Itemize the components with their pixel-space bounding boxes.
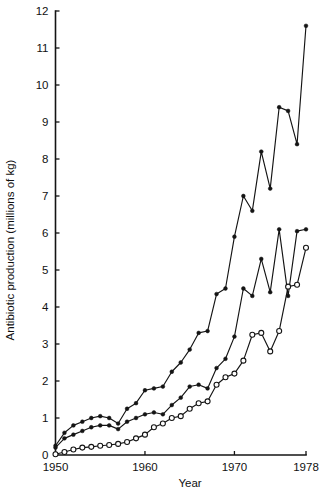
open-circle-marker xyxy=(259,330,264,335)
open-circle-marker xyxy=(286,284,291,289)
filled-circle-marker xyxy=(295,142,299,146)
filled-circle-marker xyxy=(98,414,102,418)
filled-circle-marker xyxy=(107,416,111,420)
filled-circle-marker xyxy=(134,401,138,405)
filled-circle-marker xyxy=(215,292,219,296)
filled-circle-marker xyxy=(188,385,192,389)
y-tick-label: 9 xyxy=(42,116,48,128)
filled-circle-marker xyxy=(250,294,254,298)
filled-circle-marker xyxy=(268,187,272,191)
y-tick-label: 4 xyxy=(42,301,49,313)
filled-circle-marker xyxy=(277,227,281,231)
filled-circle-marker xyxy=(206,387,210,391)
open-circle-marker xyxy=(304,245,309,250)
open-circle-marker xyxy=(62,450,67,455)
filled-circle-marker xyxy=(71,433,75,437)
x-axis: 1950196019701978 xyxy=(43,451,319,473)
open-circle-marker xyxy=(160,421,165,426)
x-axis-title: Year xyxy=(178,477,201,489)
open-circle-marker xyxy=(277,329,282,334)
open-circle-marker xyxy=(116,441,121,446)
filled-circle-marker xyxy=(80,420,84,424)
y-tick-label: 1 xyxy=(42,412,48,424)
filled-circle-marker xyxy=(197,383,201,387)
filled-circle-marker xyxy=(71,424,75,428)
filled-circle-marker xyxy=(170,403,174,407)
open-circle-marker xyxy=(223,375,228,380)
filled-circle-marker xyxy=(215,366,219,370)
filled-circle-marker xyxy=(89,416,93,420)
filled-circle-marker xyxy=(134,416,138,420)
filled-circle-marker xyxy=(143,388,147,392)
filled-circle-marker xyxy=(197,331,201,335)
open-circle-marker xyxy=(241,358,246,363)
x-tick-label: 1978 xyxy=(293,461,319,473)
filled-circle-marker xyxy=(152,387,156,391)
filled-circle-marker xyxy=(179,396,183,400)
filled-circle-marker xyxy=(98,424,102,428)
filled-circle-marker xyxy=(116,422,120,426)
open-circle-marker xyxy=(250,332,255,337)
filled-circle-marker xyxy=(250,209,254,213)
filled-circle-marker xyxy=(161,412,165,416)
filled-circle-marker xyxy=(241,287,245,291)
y-tick-label: 3 xyxy=(42,338,48,350)
open-circle-marker xyxy=(169,416,174,421)
open-circle-marker xyxy=(71,447,76,452)
data-series xyxy=(53,245,309,456)
open-circle-marker xyxy=(205,399,210,404)
open-circle-marker xyxy=(89,444,94,449)
y-tick-label: 8 xyxy=(42,153,48,165)
y-tick-label: 7 xyxy=(42,190,48,202)
filled-circle-marker xyxy=(224,357,228,361)
filled-circle-marker xyxy=(125,420,129,424)
open-circle-marker xyxy=(80,445,85,450)
open-circle-marker xyxy=(125,440,130,445)
filled-circle-marker xyxy=(304,227,308,231)
y-tick-label: 0 xyxy=(42,449,48,461)
data-series xyxy=(54,24,308,448)
open-circle-marker xyxy=(196,401,201,406)
series-line xyxy=(56,26,307,446)
filled-circle-marker xyxy=(107,424,111,428)
open-circle-marker xyxy=(142,432,147,437)
filled-circle-marker xyxy=(63,431,67,435)
open-circle-marker xyxy=(214,382,219,387)
x-tick-label: 1950 xyxy=(43,461,69,473)
y-axis-title: Antibiotic production (millions of kg) xyxy=(4,159,16,340)
x-tick-label: 1960 xyxy=(132,461,158,473)
open-circle-marker xyxy=(187,406,192,411)
open-circle-marker xyxy=(53,452,58,457)
filled-circle-marker xyxy=(152,411,156,415)
filled-circle-marker xyxy=(304,24,308,28)
x-tick-label: 1970 xyxy=(222,461,248,473)
filled-circle-marker xyxy=(224,287,228,291)
filled-circle-marker xyxy=(259,150,263,154)
open-circle-marker xyxy=(232,371,237,376)
filled-circle-marker xyxy=(63,436,67,440)
filled-circle-marker xyxy=(295,229,299,233)
filled-circle-marker xyxy=(277,105,281,109)
y-tick-label: 11 xyxy=(37,42,49,54)
filled-circle-marker xyxy=(188,348,192,352)
filled-circle-marker xyxy=(143,412,147,416)
y-tick-label: 6 xyxy=(42,227,48,239)
filled-circle-marker xyxy=(233,335,237,339)
open-circle-marker xyxy=(107,443,112,448)
open-circle-marker xyxy=(295,282,300,287)
y-tick-label: 2 xyxy=(42,375,48,387)
y-tick-label: 5 xyxy=(42,264,48,276)
filled-circle-marker xyxy=(54,446,58,450)
open-circle-marker xyxy=(98,443,103,448)
filled-circle-marker xyxy=(241,194,245,198)
data-series-group xyxy=(53,24,309,457)
open-circle-marker xyxy=(151,425,156,430)
y-tick-label: 12 xyxy=(36,5,49,17)
line-chart: 0123456789101112 1950196019701978 Year A… xyxy=(0,0,320,491)
filled-circle-marker xyxy=(233,235,237,239)
open-circle-marker xyxy=(178,414,183,419)
filled-circle-marker xyxy=(125,407,129,411)
filled-circle-marker xyxy=(89,425,93,429)
filled-circle-marker xyxy=(286,109,290,113)
y-axis: 0123456789101112 xyxy=(36,5,60,461)
